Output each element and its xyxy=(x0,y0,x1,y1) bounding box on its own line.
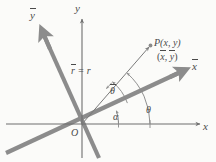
y-axis-label: y xyxy=(75,3,80,14)
point-P-barred-coords-label: (x, y) xyxy=(157,52,178,62)
angle-theta-bar-label: θ xyxy=(110,86,115,96)
origin-label: O xyxy=(71,128,78,138)
angle-theta-label: θ xyxy=(146,105,151,115)
x-bar-axis xyxy=(6,70,186,154)
point-P-marker xyxy=(149,44,153,48)
y-bar-axis xyxy=(42,29,100,158)
diagram-canvas xyxy=(0,0,216,162)
angle-alpha-label: α xyxy=(113,112,118,122)
rotated-coordinate-diagram: y y x x P(x, y) (x, y) r = r θ θ α O xyxy=(0,0,216,162)
point-P-label: P(x, y) xyxy=(154,38,181,48)
y-bar-axis-label: y xyxy=(30,10,35,21)
angle-theta-arc xyxy=(127,73,150,128)
x-axis-label: x xyxy=(203,121,208,132)
radius-relation-label: r = r xyxy=(71,66,91,76)
x-bar-axis-label: x xyxy=(192,61,197,72)
